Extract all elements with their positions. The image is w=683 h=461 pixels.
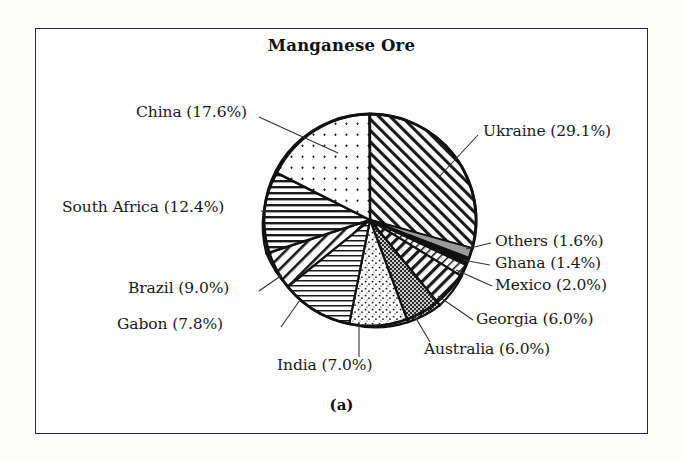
label-mexico: Mexico (2.0%) — [495, 276, 607, 294]
figure-root: Manganese Ore — [0, 0, 683, 461]
label-india: India (7.0%) — [277, 356, 372, 374]
label-south-africa: South Africa (12.4%) — [62, 198, 224, 216]
label-australia: Australia (6.0%) — [424, 340, 550, 358]
figure-caption: (a) — [0, 396, 683, 414]
leader-brazil — [259, 275, 282, 291]
leader-georgia — [438, 296, 473, 320]
pie-chart — [0, 0, 683, 461]
label-gabon: Gabon (7.8%) — [117, 315, 223, 333]
label-ukraine: Ukraine (29.1%) — [483, 122, 611, 140]
label-others: Others (1.6%) — [495, 232, 604, 250]
label-brazil: Brazil (9.0%) — [128, 279, 229, 297]
leader-gabon — [281, 300, 300, 327]
label-georgia: Georgia (6.0%) — [476, 310, 593, 328]
leader-australia — [414, 315, 430, 342]
label-ghana: Ghana (1.4%) — [495, 254, 601, 272]
label-china: China (17.6%) — [136, 103, 247, 121]
